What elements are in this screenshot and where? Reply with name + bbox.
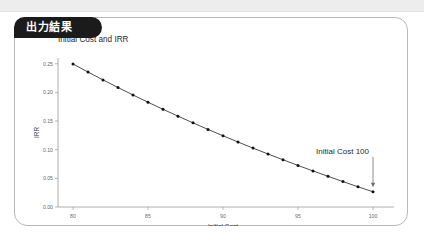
data-point <box>147 101 150 104</box>
y-tick-label: 0.15 <box>43 118 53 124</box>
data-point <box>252 147 255 150</box>
data-point <box>312 169 315 172</box>
window-top-band <box>0 0 424 12</box>
data-point <box>222 134 225 137</box>
y-tick-label: 0.05 <box>43 175 53 181</box>
data-point <box>177 115 180 118</box>
data-point <box>132 93 135 96</box>
y-tick-label: 0.20 <box>43 89 53 95</box>
irr-line-chart: Initial Cost and IRR0.000.050.100.150.20… <box>14 17 408 226</box>
x-tick-label: 90 <box>220 213 226 219</box>
x-tick-label: 80 <box>70 213 76 219</box>
series-line <box>73 64 373 192</box>
data-point <box>357 185 360 188</box>
data-point <box>192 121 195 124</box>
data-point <box>72 63 75 66</box>
data-point <box>162 108 165 111</box>
data-point <box>282 158 285 161</box>
y-tick-label: 0.00 <box>43 204 53 210</box>
data-point <box>87 71 90 74</box>
data-point <box>207 128 210 131</box>
data-point <box>267 152 270 155</box>
data-point <box>342 180 345 183</box>
y-axis-title: IRR <box>33 127 40 138</box>
data-point <box>372 190 375 193</box>
data-point <box>102 78 105 81</box>
y-tick-label: 0.25 <box>43 61 53 67</box>
annotation-arrow-head <box>371 183 375 188</box>
chart-plot-area: Initial Cost and IRR0.000.050.100.150.20… <box>14 17 408 226</box>
x-tick-label: 100 <box>369 213 378 219</box>
data-point <box>237 141 240 144</box>
data-point <box>297 164 300 167</box>
annotation-label: Initial Cost 100 <box>316 147 369 156</box>
x-tick-label: 85 <box>145 213 151 219</box>
panel-tab-output-result[interactable]: 出力結果 <box>14 17 102 38</box>
x-axis-title: Initial Cost <box>208 223 238 226</box>
data-point <box>117 86 120 89</box>
data-point <box>327 175 330 178</box>
y-tick-label: 0.10 <box>43 147 53 153</box>
x-tick-label: 95 <box>295 213 301 219</box>
